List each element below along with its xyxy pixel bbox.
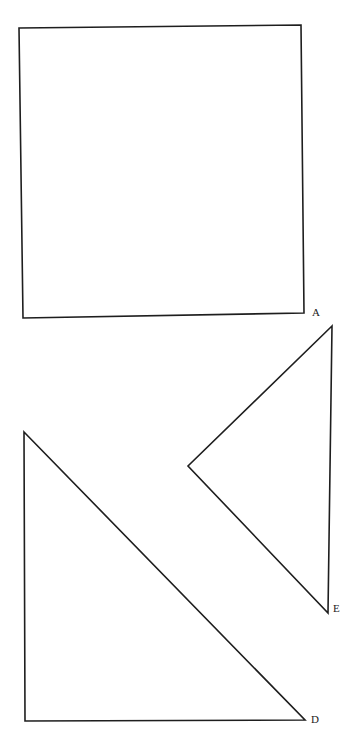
label-a: A [312, 306, 320, 318]
geometry-diagram: A E D [0, 0, 364, 755]
label-e: E [333, 602, 340, 614]
triangle-e [188, 326, 332, 613]
triangle-d [24, 432, 305, 721]
square-a [19, 25, 304, 318]
label-d: D [311, 713, 319, 725]
